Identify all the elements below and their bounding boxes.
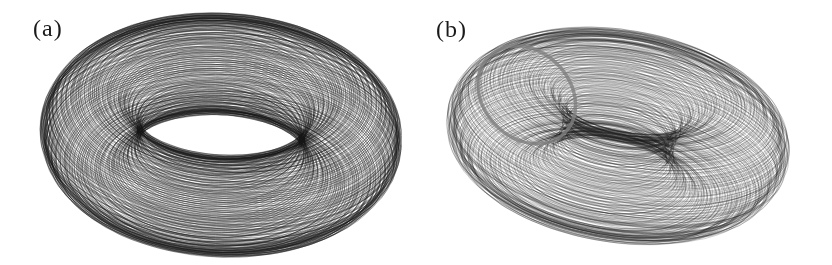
panel-label-a: (a) <box>33 16 63 40</box>
attractor-plots-canvas <box>0 0 832 265</box>
figure-two-torus-attractors: (a) (b) <box>0 0 832 265</box>
panel-label-b: (b) <box>436 17 467 41</box>
